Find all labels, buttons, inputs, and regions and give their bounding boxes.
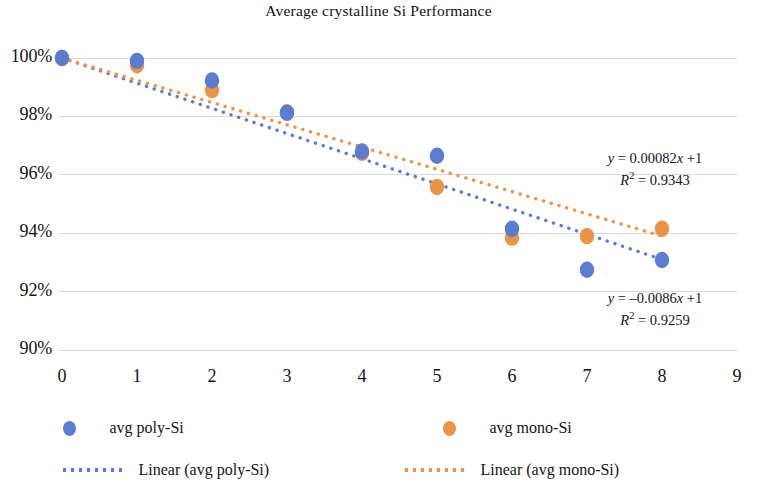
legend-marker-icon xyxy=(443,421,456,436)
data-point xyxy=(580,262,594,278)
x-axis-tick-label: 5 xyxy=(412,366,462,387)
legend-item-avg-poly-si[interactable]: avg poly-Si xyxy=(15,419,363,437)
data-point xyxy=(55,50,69,66)
data-point xyxy=(655,221,669,237)
legend-dotted-line-icon xyxy=(405,468,467,472)
annotation-r-label: R xyxy=(620,172,629,188)
data-point xyxy=(430,148,444,164)
annotation-equation-body: = 0.00082 xyxy=(614,150,677,166)
annotation-mono-fit: y = 0.00082x +1 R2 = 0.9343 xyxy=(560,150,750,189)
legend-label: Linear (avg mono-Si) xyxy=(481,461,620,479)
legend-item-linear-avg-mono-si[interactable]: Linear (avg mono-Si) xyxy=(363,461,705,479)
annotation-equation-body: = –0.0086 xyxy=(614,290,677,306)
legend-marker-icon xyxy=(63,421,76,436)
x-axis-tick-label: 7 xyxy=(562,366,612,387)
data-point xyxy=(130,53,144,69)
y-axis-tick-label: 90% xyxy=(20,338,52,359)
chart-container: Average crystalline Si Performance 90%92… xyxy=(0,0,757,485)
y-axis-tick-label: 94% xyxy=(20,221,52,242)
data-point xyxy=(205,72,219,88)
x-axis-tick-label: 6 xyxy=(487,366,537,387)
legend-label: avg poly-Si xyxy=(110,419,184,437)
x-axis-tick-label: 8 xyxy=(637,366,687,387)
x-axis-tick-label: 1 xyxy=(112,366,162,387)
legend-label: Linear (avg poly-Si) xyxy=(139,461,270,479)
x-axis-tick-label: 0 xyxy=(37,366,87,387)
legend-row-trendlines: Linear (avg poly-Si) Linear (avg mono-Si… xyxy=(0,453,757,485)
data-point xyxy=(430,179,444,195)
x-axis-tick-label: 2 xyxy=(187,366,237,387)
data-point xyxy=(505,221,519,237)
data-point xyxy=(280,105,294,121)
annotation-r2-value: = 0.9259 xyxy=(634,312,689,328)
annotation-equation-suffix: +1 xyxy=(683,290,702,306)
data-point xyxy=(580,228,594,244)
legend-label: avg mono-Si xyxy=(490,419,572,437)
x-axis-tick-label: 4 xyxy=(337,366,387,387)
chart-legend: avg poly-Si avg mono-Si Linear (avg poly… xyxy=(0,405,757,485)
legend-item-avg-mono-si[interactable]: avg mono-Si xyxy=(363,419,743,437)
y-axis-tick-label: 100% xyxy=(11,46,52,67)
annotation-equation-suffix: +1 xyxy=(683,150,702,166)
legend-item-linear-avg-poly-si[interactable]: Linear (avg poly-Si) xyxy=(53,461,363,479)
annotation-r-label: R xyxy=(620,312,629,328)
x-axis-tick-label: 9 xyxy=(712,366,757,387)
data-point xyxy=(355,143,369,159)
y-axis-tick-label: 92% xyxy=(20,280,52,301)
annotation-poly-fit: y = –0.0086x +1 R2 = 0.9259 xyxy=(560,290,750,329)
annotation-r2-value: = 0.9343 xyxy=(634,172,689,188)
legend-dotted-line-icon xyxy=(63,468,125,472)
data-point xyxy=(655,252,669,268)
legend-row-markers: avg poly-Si avg mono-Si xyxy=(0,411,757,445)
y-axis-tick-label: 96% xyxy=(20,163,52,184)
y-axis-tick-label: 98% xyxy=(20,104,52,125)
x-axis-tick-label: 3 xyxy=(262,366,312,387)
